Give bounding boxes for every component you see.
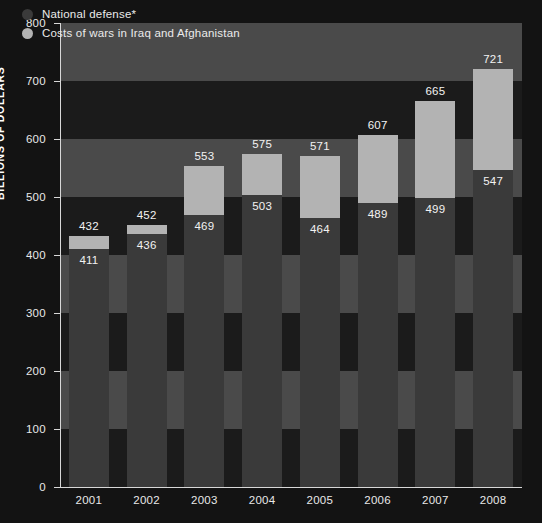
- y-axis-tick: [54, 487, 60, 488]
- bar-segment-war-costs[interactable]: [127, 225, 167, 234]
- x-axis-tick-label: 2004: [249, 494, 276, 506]
- bar-group[interactable]: 575503: [242, 154, 282, 488]
- bar-segment-war-costs[interactable]: [69, 236, 109, 248]
- bar-segment-defense[interactable]: [242, 195, 282, 487]
- y-axis-tick-label: 600: [0, 133, 46, 145]
- y-axis-tick: [54, 139, 60, 140]
- legend-swatch-war-costs: [22, 28, 33, 39]
- y-axis-tick: [54, 197, 60, 198]
- bar-segment-defense[interactable]: [300, 218, 340, 487]
- bar-label-defense: 436: [127, 239, 167, 251]
- bar-group[interactable]: 452436: [127, 225, 167, 487]
- y-axis-tick-label: 300: [0, 307, 46, 319]
- bar-group[interactable]: 553469: [184, 166, 224, 487]
- y-axis-tick-label: 200: [0, 365, 46, 377]
- x-axis-line: [60, 487, 522, 488]
- bar-label-defense: 489: [358, 208, 398, 220]
- y-axis-line: [60, 23, 61, 488]
- bar-segment-defense[interactable]: [415, 198, 455, 487]
- y-axis-tick: [54, 81, 60, 82]
- chart-legend: National defense* Costs of wars in Iraq …: [22, 8, 240, 39]
- y-axis-tick-label: 400: [0, 249, 46, 261]
- bar-label-defense: 547: [473, 175, 513, 187]
- y-axis-title: BILLIONS OF DOLLARS: [0, 67, 6, 200]
- bar-segment-defense[interactable]: [127, 234, 167, 487]
- bar-label-total: 665: [415, 85, 455, 97]
- y-axis-tick-label: 500: [0, 191, 46, 203]
- bar-segment-war-costs[interactable]: [415, 101, 455, 197]
- legend-label-national-defense: National defense*: [42, 8, 136, 20]
- bar-label-defense: 411: [69, 254, 109, 266]
- bar-label-defense: 503: [242, 200, 282, 212]
- bar-label-total: 432: [69, 220, 109, 232]
- y-axis-tick-label: 100: [0, 423, 46, 435]
- x-axis-tick-label: 2005: [306, 494, 333, 506]
- bar-segment-war-costs[interactable]: [184, 166, 224, 215]
- bar-group[interactable]: 571464: [300, 156, 340, 487]
- y-axis-tick: [54, 255, 60, 256]
- bar-segment-war-costs[interactable]: [300, 156, 340, 218]
- y-axis-tick-label: 700: [0, 75, 46, 87]
- x-axis-tick-label: 2002: [133, 494, 160, 506]
- plot-area: 4324114524365534695755035714646074896654…: [60, 23, 522, 487]
- bar-segment-defense[interactable]: [473, 170, 513, 487]
- bar-group[interactable]: 432411: [69, 236, 109, 487]
- bar-group[interactable]: 665499: [415, 101, 455, 487]
- bar-label-defense: 469: [184, 220, 224, 232]
- bar-segment-war-costs[interactable]: [242, 154, 282, 196]
- legend-item-national-defense: National defense*: [22, 8, 240, 20]
- bar-label-total: 553: [184, 150, 224, 162]
- bar-segment-defense[interactable]: [358, 203, 398, 487]
- y-axis-tick: [54, 371, 60, 372]
- x-axis-tick-label: 2008: [480, 494, 507, 506]
- x-axis-tick-label: 2007: [422, 494, 449, 506]
- y-axis-tick: [54, 429, 60, 430]
- bar-label-defense: 499: [415, 203, 455, 215]
- bar-label-total: 571: [300, 140, 340, 152]
- bar-group[interactable]: 721547: [473, 69, 513, 487]
- x-axis-tick-label: 2006: [364, 494, 391, 506]
- chart-figure: 4324114524365534695755035714646074896654…: [0, 0, 542, 523]
- legend-item-war-costs: Costs of wars in Iraq and Afghanistan: [22, 27, 240, 39]
- x-axis-tick-label: 2001: [75, 494, 102, 506]
- legend-label-war-costs: Costs of wars in Iraq and Afghanistan: [42, 27, 240, 39]
- x-axis-tick-label: 2003: [191, 494, 218, 506]
- bar-segment-defense[interactable]: [69, 249, 109, 487]
- bar-label-total: 721: [473, 53, 513, 65]
- bar-group[interactable]: 607489: [358, 135, 398, 487]
- bar-label-total: 575: [242, 138, 282, 150]
- bar-label-total: 452: [127, 209, 167, 221]
- bar-label-defense: 464: [300, 223, 340, 235]
- bar-label-total: 607: [358, 119, 398, 131]
- legend-swatch-national-defense: [22, 9, 33, 20]
- bar-segment-war-costs[interactable]: [473, 69, 513, 170]
- y-axis-tick: [54, 313, 60, 314]
- bar-segment-war-costs[interactable]: [358, 135, 398, 203]
- bar-segment-defense[interactable]: [184, 215, 224, 487]
- y-axis-tick-label: 0: [0, 481, 46, 493]
